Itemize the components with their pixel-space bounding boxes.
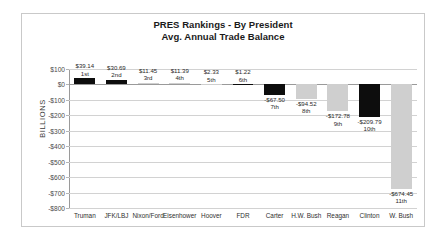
y-tick-label: -$400: [48, 143, 65, 150]
bar-rank: 5th: [204, 76, 219, 83]
plot-area: $100$0-$100-$200-$300-$400-$500-$600-$70…: [69, 69, 417, 208]
y-tick-label: -$500: [48, 158, 65, 165]
chart-subtitle: Avg. Annual Trade Balance: [22, 31, 424, 43]
y-tick-label: -$600: [48, 174, 65, 181]
bar[interactable]: [106, 80, 127, 85]
y-tick-label: $0: [58, 81, 65, 88]
bar[interactable]: [169, 83, 190, 85]
bar[interactable]: [264, 84, 285, 94]
page-title: PRES Rankings - By President: [22, 19, 424, 31]
bar-value-label: $11.394th: [171, 67, 189, 82]
bar[interactable]: [391, 84, 412, 188]
bar-slot[interactable]: $30.692nd: [101, 69, 133, 208]
bar-slot[interactable]: $11.453rd: [132, 69, 164, 208]
x-tick-label: JFK/LBJ: [104, 212, 128, 219]
bar-rank: 9th: [326, 120, 350, 127]
bar-value-label: $2.335th: [204, 68, 219, 83]
y-tick-label: $100: [50, 66, 65, 73]
y-tick-mark: [66, 208, 69, 209]
bar-value: -$94.52: [296, 100, 317, 107]
bar-value-label: $39.141st: [75, 62, 94, 77]
x-tick-label: Truman: [74, 212, 96, 219]
y-axis-title: BILLIONS: [38, 79, 47, 159]
bar-slot[interactable]: -$67.507th: [259, 69, 291, 208]
bar-rank: 10th: [358, 125, 382, 132]
bar-value: $30.69: [107, 64, 126, 71]
bar-slot[interactable]: $2.335th: [196, 69, 228, 208]
gridline: [69, 208, 417, 209]
bar-slot[interactable]: -$172.789th: [322, 69, 354, 208]
bar-slot[interactable]: -$674.4511th: [385, 69, 417, 208]
bar-value-label: $11.453rd: [139, 67, 157, 82]
bar-value-label: $1.226th: [235, 68, 250, 83]
bar-value-label: -$67.507th: [264, 96, 285, 111]
bar-value: -$209.79: [358, 118, 382, 125]
x-tick-label: Eisenhower: [163, 212, 196, 219]
chart-title-block: PRES Rankings - By President Avg. Annual…: [22, 19, 424, 42]
bar[interactable]: [201, 84, 222, 85]
y-tick-label: -$800: [48, 205, 65, 212]
bar[interactable]: [74, 78, 95, 84]
bar-rank: 1st: [75, 70, 94, 77]
bar-value-label: $30.692nd: [107, 64, 126, 79]
y-tick-label: -$100: [48, 96, 65, 103]
x-tick-label: FDR: [236, 212, 249, 219]
bar-slot[interactable]: -$94.528th: [290, 69, 322, 208]
x-tick-label: H.W. Bush: [291, 212, 321, 219]
x-tick-label: Clinton: [360, 212, 380, 219]
bar-rank: 4th: [171, 74, 189, 81]
bar-value-label: -$94.528th: [296, 100, 317, 115]
y-tick-label: -$700: [48, 189, 65, 196]
y-tick-label: -$200: [48, 112, 65, 119]
bar-rank: 8th: [296, 107, 317, 114]
bar-value: -$67.50: [264, 96, 285, 103]
x-tick-label: Hoover: [201, 212, 222, 219]
bar-slot[interactable]: $11.394th: [164, 69, 196, 208]
bar-value: $2.33: [204, 68, 219, 75]
bar-value: -$674.45: [389, 190, 413, 197]
x-tick-label: W. Bush: [389, 212, 413, 219]
bar[interactable]: [138, 83, 159, 85]
bar-slot[interactable]: $1.226th: [227, 69, 259, 208]
bar-rank: 3rd: [139, 74, 157, 81]
bar-rank: 11th: [389, 197, 413, 204]
bar-value-label: -$209.7910th: [358, 118, 382, 133]
bar-rank: 2nd: [107, 71, 126, 78]
bar-rank: 7th: [264, 103, 285, 110]
bar-slot[interactable]: -$209.7910th: [354, 69, 386, 208]
bar-rank: 6th: [235, 76, 250, 83]
bar-value: -$172.78: [326, 112, 350, 119]
x-tick-label: Nixon/Ford: [132, 212, 163, 219]
bar-value: $1.22: [235, 68, 250, 75]
bar-slot[interactable]: $39.141st: [69, 69, 101, 208]
bar-value-label: -$172.789th: [326, 112, 350, 127]
chart-container: PRES Rankings - By President Avg. Annual…: [21, 13, 425, 227]
y-tick-label: -$300: [48, 127, 65, 134]
bar[interactable]: [359, 84, 380, 116]
bar[interactable]: [296, 84, 317, 99]
bar[interactable]: [327, 84, 348, 111]
bar-value-label: -$674.4511th: [389, 190, 413, 205]
bar-value: $11.45: [139, 67, 157, 74]
bar-value: $39.14: [75, 62, 94, 69]
bar[interactable]: [233, 84, 254, 85]
x-tick-label: Reagan: [327, 212, 349, 219]
bar-value: $11.39: [171, 67, 189, 74]
x-tick-label: Carter: [266, 212, 284, 219]
